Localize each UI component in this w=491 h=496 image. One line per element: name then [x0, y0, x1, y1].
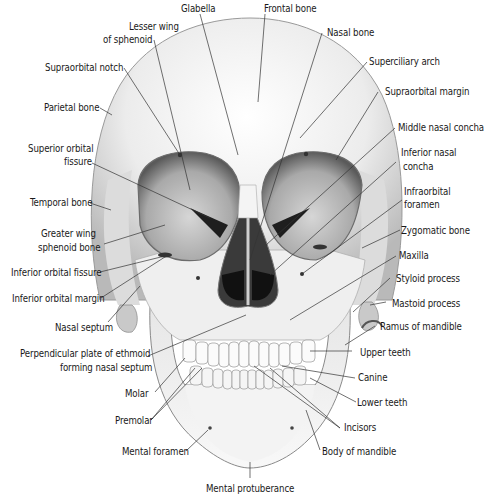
label-lesser-wing-line1: Lesser wing: [129, 20, 179, 33]
label-greater-wing-line2: sphenoid bone: [38, 241, 100, 254]
lower-teeth: [190, 366, 306, 389]
label-nasal-septum: Nasal septum: [55, 321, 113, 334]
label-middle-nasal-concha: Middle nasal concha: [398, 121, 484, 134]
label-lower-teeth: Lower teeth: [357, 396, 407, 409]
label-mental-foramen: Mental foramen: [122, 445, 189, 458]
label-styloid-process: Styloid process: [396, 272, 460, 285]
label-canine: Canine: [358, 371, 387, 384]
label-maxilla: Maxilla: [399, 249, 429, 262]
label-lesser-wing-line2: of sphenoid: [103, 33, 152, 46]
label-ramus-of-mandible: Ramus of mandible: [380, 320, 462, 333]
label-greater-wing-line1: Greater wing: [41, 227, 96, 240]
label-temporal-bone: Temporal bone: [30, 196, 92, 209]
label-superciliary-arch: Superciliary arch: [369, 55, 440, 68]
label-molar: Molar: [125, 387, 148, 400]
label-inferior-nasal-concha-line1: Inferior nasal: [401, 146, 456, 159]
label-incisors: Incisors: [344, 421, 376, 434]
label-supraorbital-notch: Supraorbital notch: [45, 61, 123, 74]
label-perpendicular-plate-line2: forming nasal septum: [60, 361, 152, 374]
label-mastoid-process: Mastoid process: [392, 297, 460, 310]
label-superior-orbital-fissure-line2: fissure: [64, 155, 92, 168]
label-parietal-bone: Parietal bone: [44, 101, 99, 114]
label-superior-orbital-fissure-line1: Superior orbital: [28, 142, 93, 155]
label-zygomatic-bone: Zygomatic bone: [401, 224, 470, 237]
upper-teeth: [183, 340, 315, 367]
label-glabella: Glabella: [181, 2, 215, 15]
label-infraorbital-foramen-line2: foramen: [404, 198, 440, 211]
label-frontal-bone: Frontal bone: [264, 2, 317, 15]
label-inferior-orbital-fissure: Inferior orbital fissure: [11, 266, 102, 279]
label-body-of-mandible: Body of mandible: [322, 445, 396, 458]
label-perpendicular-plate-line1: Perpendicular plate of ethmoid: [20, 347, 150, 360]
label-infraorbital-foramen-line1: Infraorbital: [404, 185, 450, 198]
label-supraorbital-margin: Supraorbital margin: [385, 85, 469, 98]
label-premolar: Premolar: [115, 414, 153, 427]
label-inferior-nasal-concha-line2: concha: [403, 160, 433, 173]
label-upper-teeth: Upper teeth: [360, 346, 411, 359]
label-inferior-orbital-margin: Inferior orbital margin: [12, 292, 105, 305]
skull-diagram: Glabella Frontal bone Lesser wing of sph…: [0, 0, 491, 496]
label-mental-protuberance: Mental protuberance: [206, 482, 294, 495]
label-nasal-bone: Nasal bone: [327, 26, 374, 39]
